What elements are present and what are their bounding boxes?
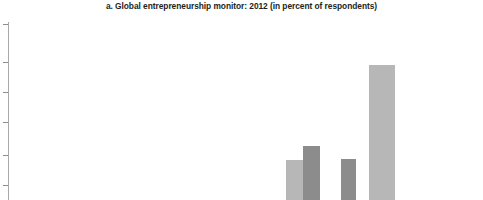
bar-dark-5 <box>341 159 356 200</box>
bar-dark-4 <box>303 146 320 200</box>
bar-light-6 <box>369 65 395 200</box>
bar-light-3 <box>286 160 303 200</box>
chart-figure: a. Global entrepreneurship monitor: 2012… <box>0 0 483 200</box>
chart-title: a. Global entrepreneurship monitor: 2012… <box>0 1 483 11</box>
bars-layer <box>0 22 483 200</box>
plot-area <box>0 22 483 200</box>
